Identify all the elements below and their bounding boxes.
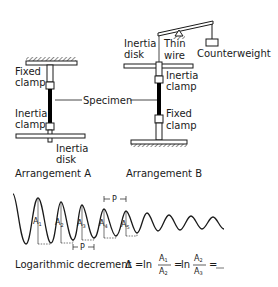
ceiling-hatch [26,57,76,61]
label-inertia-clamp-l2: clamp [15,119,46,130]
specimen-bar-b [157,83,161,115]
arrangement-a: Fixed clamp Inertia clamp Inertia disk A… [15,57,91,179]
base-plate-b [131,140,187,144]
caption-arrangement-b: Arrangement B [126,168,202,179]
formula-text: Logarithmic decrement [15,259,132,270]
period-marker-bottom: P [73,242,94,252]
formula-eq-3: = [209,259,217,270]
label-fixed-clamp-b-l2: clamp [166,120,197,131]
frac2-den: A3 [194,267,203,276]
formula-ln-1: ln [143,259,152,270]
amp-label-4: A4 [99,219,108,229]
lower-shaft-b [156,123,162,140]
floor-hatch [131,144,187,147]
upper-shaft-b [156,62,162,76]
inertia-clamp [46,123,54,130]
frac1-num: A1 [159,254,168,263]
label-fixed-clamp-b-l1: Fixed [166,108,192,119]
amp-label-1: A1 [33,217,42,227]
label-counterweight: Counterweight [197,48,271,59]
label-thin-wire-l1: Thin [163,38,186,49]
inertia-disk [16,134,85,138]
label-inertia-disk-b-l1: Inertia [124,38,156,49]
label-fixed-clamp-l2: clamp [15,77,46,88]
frac2-num: A2 [194,254,203,263]
label-inertia-clamp-l1: Inertia [15,108,47,119]
log-decrement-formula: Logarithmic decrement Δ = ln A1 A2 = ln … [15,254,224,276]
label-inertia-disk-l2: disk [56,154,76,165]
amp-label-3: A3 [77,219,86,229]
period-marker-top: P [104,194,126,204]
caption-arrangement-a: Arrangement A [15,168,91,179]
label-inertia-clamp-b-l2: clamp [166,81,197,92]
label-inertia-disk-l1: Inertia [56,143,88,154]
formula-ln-2: ln [181,259,190,270]
damped-waveform: A1 A2 A3 A4 A5 P P [13,194,224,252]
label-inertia-disk-b-l2: disk [124,49,144,60]
torsion-pendulum-diagram: Fixed clamp Inertia clamp Inertia disk A… [0,0,278,287]
period-label-bottom: P [80,243,85,252]
fixed-clamp-b [155,115,163,123]
label-fixed-clamp-l1: Fixed [15,66,41,77]
period-label-top: P [112,195,117,204]
label-inertia-clamp-b-l1: Inertia [166,70,198,81]
label-specimen: Specimen [83,95,132,106]
amp-label-5: A5 [121,220,130,230]
formula-delta: Δ [125,259,132,270]
amp-label-2: A2 [55,218,64,228]
frac1-den: A2 [159,267,168,276]
specimen-bar [48,89,52,123]
inertia-clamp-b [155,76,163,83]
upper-shaft [47,65,53,82]
label-thin-wire-l2: wire [164,50,185,61]
fixed-clamp [46,82,54,89]
counterweight [206,39,218,46]
specimen-callout: Specimen [55,95,157,106]
top-fixed-plate [26,61,77,65]
